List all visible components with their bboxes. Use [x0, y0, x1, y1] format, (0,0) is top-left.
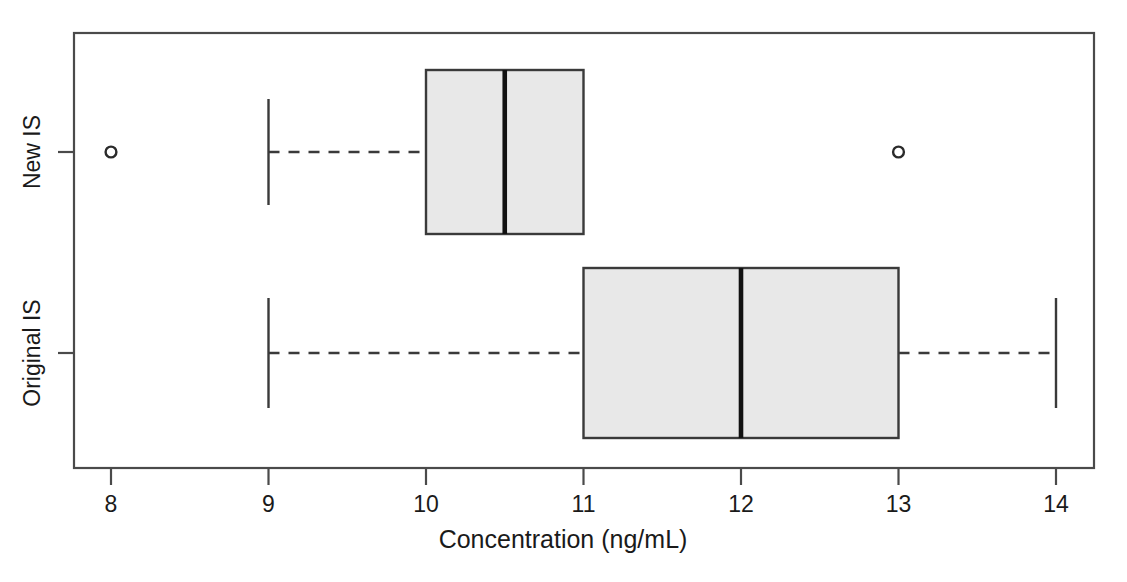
- x-tick-label: 9: [262, 491, 275, 517]
- x-tick-label: 8: [105, 491, 118, 517]
- x-tick-label: 13: [886, 491, 912, 517]
- x-tick-label: 14: [1043, 491, 1069, 517]
- y-category-label: Original IS: [19, 299, 45, 406]
- boxplot-canvas: 891011121314 New ISOriginal IS Concentra…: [0, 0, 1127, 582]
- x-axis-title: Concentration (ng/mL): [439, 525, 688, 553]
- x-tick-label: 10: [413, 491, 439, 517]
- y-category-label: New IS: [19, 115, 45, 189]
- x-tick-label: 11: [572, 491, 596, 517]
- x-tick-label: 12: [728, 491, 754, 517]
- boxplot-figure: 891011121314 New ISOriginal IS Concentra…: [0, 0, 1127, 582]
